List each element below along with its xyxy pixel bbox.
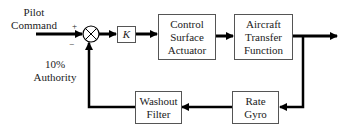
gain-label: K: [123, 28, 130, 41]
rate-gyro-line1: Rate: [245, 95, 265, 108]
washout-line2: Filter: [147, 108, 171, 121]
gain-block: K: [117, 26, 136, 43]
plus-sign: +: [72, 20, 77, 33]
pilot-command-line2: Command: [4, 19, 64, 32]
aircraft-line2: Transfer: [245, 31, 282, 44]
actuator-line3: Actuator: [168, 44, 206, 57]
pilot-command-label: Pilot Command: [4, 6, 64, 32]
authority-line2: Authority: [30, 71, 80, 84]
control-surface-actuator-block: Control Surface Actuator: [158, 14, 216, 60]
actuator-line2: Surface: [170, 31, 204, 44]
minus-sign: −: [69, 38, 74, 51]
rate-gyro-line2: Gyro: [244, 108, 267, 121]
pilot-command-line1: Pilot: [4, 6, 64, 19]
actuator-line1: Control: [170, 18, 204, 31]
authority-label: 10% Authority: [30, 58, 80, 84]
authority-line1: 10%: [30, 58, 80, 71]
aircraft-transfer-function-block: Aircraft Transfer Function: [234, 14, 293, 60]
washout-filter-block: Washout Filter: [135, 91, 182, 124]
rate-gyro-block: Rate Gyro: [232, 91, 279, 124]
aircraft-line1: Aircraft: [246, 18, 281, 31]
washout-line1: Washout: [139, 95, 177, 108]
aircraft-line3: Function: [244, 44, 283, 57]
